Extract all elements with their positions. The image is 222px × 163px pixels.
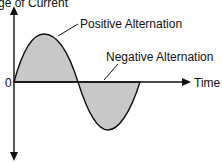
x-axis-label: Time	[194, 77, 220, 89]
x-axis-arrow-icon	[182, 78, 191, 86]
negative-alternation-area	[78, 82, 140, 130]
origin-label: 0	[5, 77, 12, 89]
positive-leader-line	[58, 24, 78, 36]
negative-leader-line	[104, 64, 118, 80]
positive-alternation-area	[14, 34, 78, 82]
positive-alternation-label: Positive Alternation	[80, 18, 182, 30]
negative-alternation-label: Negative Alternation	[106, 51, 213, 63]
y-axis-label: ge of Current	[0, 0, 68, 9]
y-axis-down-arrow-icon	[10, 152, 18, 161]
